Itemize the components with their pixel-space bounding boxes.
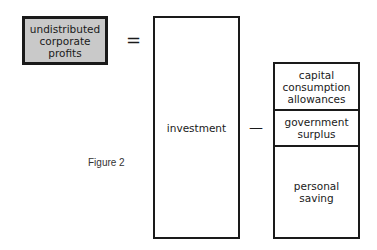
government-surplus-box: government surplus [273, 109, 360, 147]
capital-consumption-box: capital consumption allowances [273, 62, 360, 111]
government-surplus-label: government surplus [284, 116, 348, 140]
personal-saving-label: personal saving [294, 180, 339, 204]
figure-caption: Figure 2 [88, 157, 125, 168]
minus-sign: — [249, 118, 263, 136]
undistributed-profits-box: undistributed corporate profits [22, 16, 108, 65]
equals-sign: = [126, 31, 141, 49]
personal-saving-box: personal saving [273, 145, 360, 239]
right-stack: capital consumption allowances governmen… [273, 62, 360, 239]
undistributed-profits-label: undistributed corporate profits [30, 23, 100, 59]
investment-label: investment [167, 122, 226, 134]
capital-consumption-label: capital consumption allowances [283, 69, 351, 105]
investment-box-body: investment [153, 16, 240, 239]
